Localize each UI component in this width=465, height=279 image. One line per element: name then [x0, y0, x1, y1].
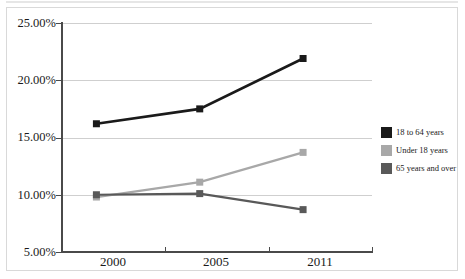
legend-label-65-and-over: 65 years and over: [396, 164, 456, 173]
data-point-marker: [196, 105, 203, 112]
data-point-marker: [196, 179, 203, 186]
legend-item-under-18: Under 18 years: [381, 144, 461, 156]
legend-label-18-to-64: 18 to 64 years: [396, 128, 444, 137]
data-point-marker: [300, 55, 307, 62]
data-point-marker: [93, 120, 100, 127]
legend-swatch-icon-65-and-over: [381, 163, 392, 174]
data-point-marker: [196, 190, 203, 197]
legend-item-18-to-64: 18 to 64 years: [381, 126, 461, 138]
legend-swatch-icon-under-18: [381, 145, 392, 156]
legend-label-under-18: Under 18 years: [396, 146, 448, 155]
data-point-marker: [93, 191, 100, 198]
legend-swatch-icon-18-to-64: [381, 127, 392, 138]
data-point-marker: [300, 149, 307, 156]
series-line-0: [96, 59, 303, 124]
chart-legend: 18 to 64 years Under 18 years 65 years a…: [381, 126, 461, 180]
legend-item-65-and-over: 65 years and over: [381, 162, 461, 174]
data-point-marker: [300, 206, 307, 213]
